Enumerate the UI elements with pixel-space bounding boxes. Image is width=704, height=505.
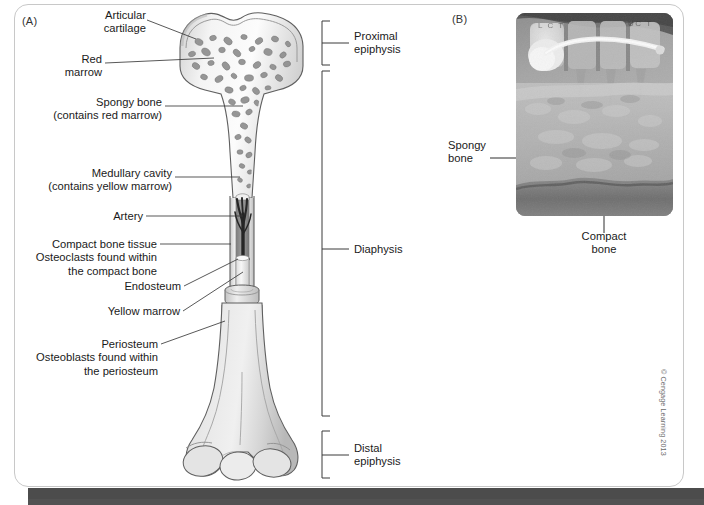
label-artery: Artery	[60, 210, 143, 223]
dental-xray-image: L C T UC T	[516, 13, 673, 216]
footer-text-shadow	[28, 499, 704, 505]
label-medullary-cavity: Medullary cavity (contains yellow marrow…	[14, 167, 172, 194]
label-compact-bone-xray: Compact bone	[564, 230, 644, 257]
label-red-marrow: Red marrow	[20, 53, 102, 80]
copyright-notice: © Cengage Learning 2013	[659, 369, 668, 456]
page-footer-bar	[28, 488, 704, 505]
label-distal-epiphysis: Distal epiphysis	[354, 442, 444, 469]
label-spongy-bone-xray: Spongy bone	[448, 139, 518, 166]
label-periosteum: Periosteum Osteoblasts found within the …	[18, 338, 158, 378]
panel-b-letter: (B)	[452, 13, 467, 25]
label-spongy-bone: Spongy bone (contains red marrow)	[20, 96, 162, 123]
label-endosteum: Endosteum	[86, 280, 181, 293]
anatomy-figure: (A) (B)	[0, 0, 704, 505]
label-compact-bone-tissue: Compact bone tissue Osteoclasts found wi…	[18, 238, 157, 278]
label-proximal-epiphysis: Proximal epiphysis	[354, 30, 444, 57]
label-yellow-marrow: Yellow marrow	[70, 305, 180, 318]
label-diaphysis: Diaphysis	[354, 243, 444, 256]
label-articular-cartilage: Articular cartilage	[20, 9, 146, 36]
